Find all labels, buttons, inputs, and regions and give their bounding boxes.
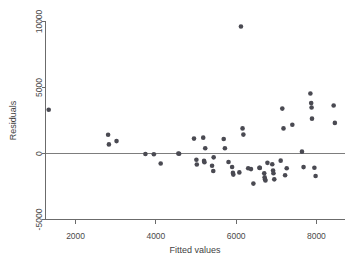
data-point bbox=[143, 152, 148, 157]
data-point bbox=[271, 171, 276, 176]
data-point bbox=[223, 146, 228, 151]
data-point bbox=[107, 142, 112, 147]
data-point bbox=[239, 24, 244, 29]
data-point bbox=[300, 149, 305, 154]
x-tick-label-4000: 4000 bbox=[146, 231, 165, 241]
data-point bbox=[211, 155, 216, 160]
data-point bbox=[240, 126, 245, 131]
data-point bbox=[194, 157, 199, 162]
chart-figure: -500005000100002000400060008000 Fitted v… bbox=[0, 0, 354, 254]
data-point bbox=[312, 165, 317, 170]
data-point bbox=[280, 106, 285, 111]
data-point bbox=[309, 105, 314, 110]
tick-marks-group bbox=[42, 22, 317, 224]
tick-labels-group: -500005000100002000400060008000 bbox=[34, 9, 327, 240]
x-tick-label-6000: 6000 bbox=[227, 231, 246, 241]
data-point bbox=[270, 162, 275, 167]
data-point bbox=[309, 101, 314, 106]
data-point bbox=[284, 166, 289, 171]
data-point bbox=[258, 166, 263, 171]
data-point bbox=[310, 116, 315, 121]
data-point bbox=[221, 137, 226, 142]
x-tick-label-8000: 8000 bbox=[307, 231, 326, 241]
data-points-group bbox=[46, 24, 337, 186]
data-point bbox=[46, 107, 51, 112]
data-point bbox=[202, 160, 207, 165]
data-point bbox=[301, 165, 306, 170]
data-point bbox=[241, 132, 246, 137]
data-point bbox=[290, 122, 295, 127]
data-point bbox=[278, 158, 283, 163]
y-tick-label-5000: 5000 bbox=[34, 78, 44, 97]
data-point bbox=[201, 135, 206, 140]
data-point bbox=[152, 152, 157, 157]
data-point bbox=[265, 161, 270, 166]
data-point bbox=[262, 171, 267, 176]
axes-group bbox=[46, 21, 345, 220]
data-point bbox=[251, 181, 256, 186]
data-point bbox=[106, 132, 111, 137]
data-point bbox=[158, 161, 163, 166]
data-point bbox=[226, 160, 231, 165]
data-point bbox=[308, 91, 313, 96]
data-point bbox=[333, 121, 338, 126]
y-tick-label-10000: 10000 bbox=[34, 9, 44, 33]
scatter-plot: -500005000100002000400060008000 Fitted v… bbox=[0, 0, 354, 254]
data-point bbox=[237, 170, 242, 175]
y-tick-label--5000: -5000 bbox=[34, 208, 44, 230]
data-point bbox=[211, 169, 216, 174]
data-point bbox=[283, 173, 288, 178]
data-point bbox=[281, 126, 286, 131]
data-point bbox=[313, 174, 318, 179]
data-point bbox=[231, 172, 236, 177]
x-axis-title: Fitted values bbox=[169, 245, 221, 254]
data-point bbox=[230, 165, 235, 170]
data-point bbox=[272, 177, 277, 182]
data-point bbox=[192, 136, 197, 141]
x-tick-label-2000: 2000 bbox=[66, 231, 85, 241]
data-point bbox=[249, 167, 254, 172]
data-point bbox=[177, 151, 182, 156]
data-point bbox=[331, 103, 336, 108]
data-point bbox=[195, 162, 200, 167]
data-point bbox=[263, 178, 268, 183]
y-axis-title: Residuals bbox=[8, 100, 18, 140]
data-point bbox=[203, 146, 208, 151]
y-tick-label-0: 0 bbox=[34, 151, 44, 156]
data-point bbox=[114, 139, 119, 144]
data-point bbox=[210, 163, 215, 168]
